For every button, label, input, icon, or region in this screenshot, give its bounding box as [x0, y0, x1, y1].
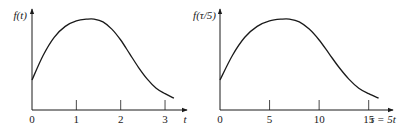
y-axis-label: f(τ/5)	[193, 9, 216, 22]
x-tick-label: 1	[74, 113, 80, 125]
x-ticks: 0123	[29, 100, 168, 125]
chart-f-of-tau-over-5: f(τ/5) τ = 5t 051015	[193, 9, 397, 125]
x-tick-label: 15	[363, 113, 375, 125]
x-tick-label: 3	[162, 113, 168, 125]
x-axis-label: τ = 5t	[370, 113, 396, 125]
figure: f(t) t 0123 f(τ/5) τ = 5t 051015	[0, 0, 407, 130]
x-ticks: 051015	[217, 100, 374, 125]
x-tick-label: 0	[217, 113, 223, 125]
x-tick-label: 0	[29, 113, 35, 125]
x-tick-label: 10	[314, 113, 326, 125]
x-axis-label: t	[183, 113, 187, 125]
x-tick-label: 2	[118, 113, 124, 125]
x-tick-label: 5	[267, 113, 273, 125]
series-line-f-of-t	[32, 19, 174, 98]
chart-f-of-t: f(t) t 0123	[14, 9, 188, 125]
series-line-f-of-tau-over-5	[220, 19, 379, 98]
y-axis-label: f(t)	[14, 9, 28, 22]
